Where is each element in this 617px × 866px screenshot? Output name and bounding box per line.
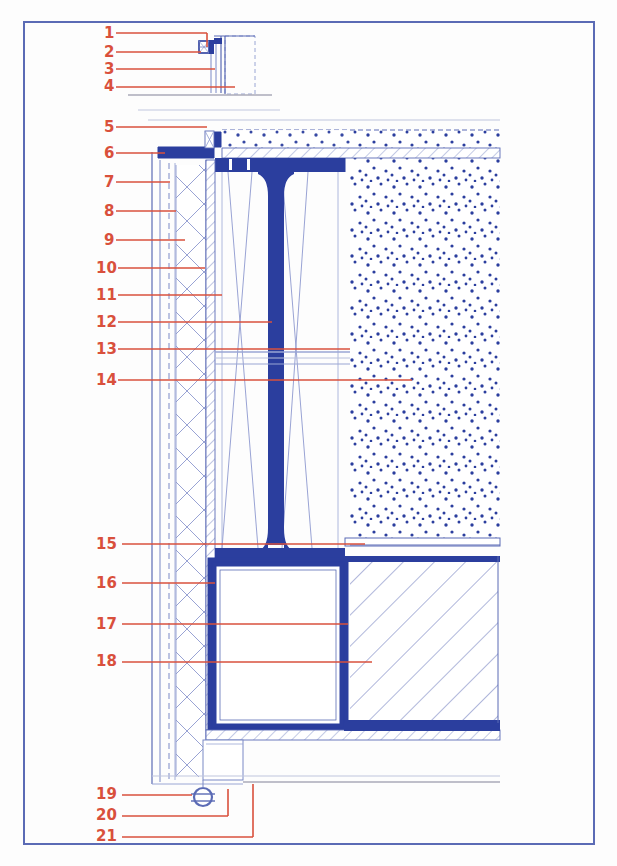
callout-number-14: 14 [96,371,117,389]
callout-number-7: 7 [104,173,114,191]
callout-21[interactable]: 21 [96,784,253,845]
callout-4[interactable]: 4 [104,77,235,95]
drawing-page: 123456789101112131415161718192021 [0,0,617,866]
architectural-detail-svg: 123456789101112131415161718192021 [0,0,617,866]
callout-5[interactable]: 5 [104,118,207,136]
callout-number-15: 15 [96,535,117,553]
callout-13[interactable]: 13 [96,340,350,358]
callout-number-19: 19 [96,785,117,803]
callout-number-18: 18 [96,652,117,670]
callout-number-21: 21 [96,827,117,845]
callout-number-9: 9 [104,231,114,249]
callout-number-13: 13 [96,340,117,358]
callout-number-11: 11 [96,286,117,304]
callout-19[interactable]: 19 [96,785,192,803]
callout-number-12: 12 [96,313,117,331]
downpipe-circle [194,788,212,806]
callout-number-8: 8 [104,202,114,220]
hollow-box-section [212,562,344,728]
callout-number-1: 1 [104,24,114,42]
callout-9[interactable]: 9 [104,231,185,249]
callout-number-3: 3 [104,60,114,78]
callout-number-16: 16 [96,574,117,592]
callout-3[interactable]: 3 [104,60,215,78]
callout-2[interactable]: 2 [104,43,201,61]
callout-number-17: 17 [96,615,117,633]
callout-number-6: 6 [104,144,114,162]
diagonal-hatch-fill [350,560,498,726]
callout-number-4: 4 [104,77,114,95]
callout-number-20: 20 [96,806,117,824]
callout-number-2: 2 [104,43,114,61]
callout-number-5: 5 [104,118,114,136]
concrete-fill [350,130,500,545]
insulation-zigzag [176,165,206,777]
callout-number-10: 10 [96,259,117,277]
top-head-detail [128,36,280,110]
callout-8[interactable]: 8 [104,202,176,220]
callout-6[interactable]: 6 [104,144,165,162]
callout-1[interactable]: 1 [104,24,207,47]
left-cladding-zone [152,152,215,784]
i-beam-mullion [222,172,338,552]
